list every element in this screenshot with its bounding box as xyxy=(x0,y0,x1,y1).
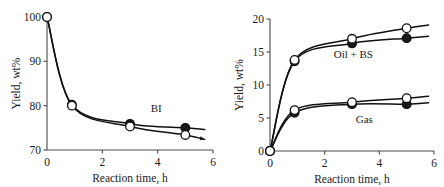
x-tick-label: 4 xyxy=(155,156,161,168)
y-tick-label: 0 xyxy=(258,145,264,157)
figure-two-panel-yield-plots: 7080901000246Reaction time, hYield, wt%B… xyxy=(0,0,444,187)
series-annotation-label: Oil + BS xyxy=(334,48,373,60)
x-tick-label: 0 xyxy=(267,157,273,169)
bi-chart-svg: 7080901000246Reaction time, hYield, wt%B… xyxy=(0,0,222,187)
x-axis-title: Reaction time, h xyxy=(314,173,390,186)
x-tick-label: 6 xyxy=(431,157,437,169)
data-point-open-marker xyxy=(126,122,135,131)
series-curve xyxy=(47,17,205,130)
y-axis-title: Yield, wt% xyxy=(233,59,246,111)
y-axis-title: Yield, wt% xyxy=(10,57,23,109)
y-tick-label: 80 xyxy=(30,100,42,112)
y-tick-label: 100 xyxy=(24,11,42,23)
data-point-open-marker xyxy=(402,94,411,103)
data-point-open-marker xyxy=(290,56,299,65)
data-point-open-marker xyxy=(181,131,190,140)
y-tick-label: 70 xyxy=(30,144,42,156)
y-tick-label: 20 xyxy=(253,13,265,25)
data-point-open-marker xyxy=(290,106,299,115)
x-tick-label: 2 xyxy=(322,157,328,169)
series-annotation-label: Gas xyxy=(356,113,373,125)
data-point-filled-marker xyxy=(402,34,411,43)
data-point-open-marker xyxy=(402,24,411,33)
y-tick-label: 90 xyxy=(30,55,42,67)
x-tick-label: 4 xyxy=(376,157,382,169)
x-tick-label: 6 xyxy=(210,156,216,168)
y-tick-label: 15 xyxy=(253,46,265,58)
data-point-open-marker xyxy=(68,101,77,110)
chart-panel-oil-bs-gas: 051015200246Reaction time, hYield, wt%Oi… xyxy=(222,0,444,187)
y-tick-label: 5 xyxy=(258,112,264,124)
series-annotation-label: BI xyxy=(151,102,162,114)
data-point-open-marker xyxy=(348,35,357,44)
data-point-open-marker xyxy=(266,147,275,156)
x-tick-label: 2 xyxy=(99,156,105,168)
oil-bs-gas-chart-svg: 051015200246Reaction time, hYield, wt%Oi… xyxy=(222,0,444,187)
data-point-open-marker xyxy=(43,13,52,22)
data-point-open-marker xyxy=(348,98,357,107)
chart-panel-bi: 7080901000246Reaction time, hYield, wt%B… xyxy=(0,0,222,187)
series-curve xyxy=(47,17,205,139)
x-tick-label: 0 xyxy=(44,156,50,168)
y-tick-label: 10 xyxy=(253,79,265,91)
x-axis-title: Reaction time, h xyxy=(92,172,168,185)
